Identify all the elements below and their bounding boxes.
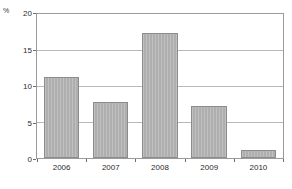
x-axis-tick-label: 2010 xyxy=(234,163,283,172)
bar-slot xyxy=(86,14,135,158)
bar[interactable] xyxy=(191,106,226,158)
x-axis-tick-mark xyxy=(37,159,38,162)
x-axis-tick-label: 2006 xyxy=(37,163,86,172)
y-axis-tick-label: 15 xyxy=(14,45,32,54)
y-axis-tick-label: 10 xyxy=(14,82,32,91)
y-axis-tick-label: 5 xyxy=(14,118,32,127)
y-axis-labels: 05101520 xyxy=(10,0,32,189)
x-axis-tick-mark xyxy=(283,159,284,162)
bar-slot xyxy=(37,14,86,158)
x-axis-tick-mark xyxy=(135,159,136,162)
y-axis-tick-label: 0 xyxy=(14,155,32,164)
bar-slot xyxy=(234,14,283,158)
y-axis-tick-mark xyxy=(33,159,36,160)
x-axis-tick-label: 2009 xyxy=(185,163,234,172)
bar-slot xyxy=(185,14,234,158)
y-axis-tick-label: 20 xyxy=(14,9,32,18)
x-axis-tick-label: 2007 xyxy=(86,163,135,172)
bar[interactable] xyxy=(93,102,128,158)
bar[interactable] xyxy=(44,77,79,158)
bar-slot xyxy=(135,14,184,158)
x-axis-tick-marks xyxy=(37,159,283,162)
x-axis-tick-mark xyxy=(86,159,87,162)
x-axis-tick-mark xyxy=(234,159,235,162)
bar[interactable] xyxy=(142,33,177,158)
bars-container xyxy=(37,14,283,158)
bar-chart: % 05101520 20062007200820092010 xyxy=(0,0,292,189)
x-axis-tick-mark xyxy=(185,159,186,162)
x-axis-labels: 20062007200820092010 xyxy=(37,163,283,183)
bar[interactable] xyxy=(241,150,276,158)
x-axis-tick-label: 2008 xyxy=(135,163,184,172)
y-axis-unit-label: % xyxy=(3,7,9,14)
